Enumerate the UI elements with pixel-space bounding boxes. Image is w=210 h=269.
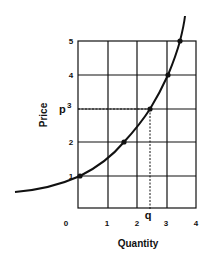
svg-text:1: 1 — [105, 219, 110, 228]
p3-label: p 3 — [59, 101, 72, 115]
x-tick-labels: 0 1 2 3 4 — [64, 219, 199, 228]
svg-text:4: 4 — [69, 71, 74, 80]
svg-text:5: 5 — [69, 37, 74, 46]
svg-text:0: 0 — [64, 219, 69, 228]
svg-text:2: 2 — [135, 219, 140, 228]
svg-text:3: 3 — [164, 219, 169, 228]
svg-text:3: 3 — [67, 101, 72, 110]
svg-text:2: 2 — [69, 138, 74, 147]
y-axis-title: Price — [38, 102, 49, 127]
supply-chart: 5 4 2 1 p 3 q 0 1 2 3 4 Quantity Price — [0, 0, 210, 269]
svg-text:p: p — [59, 103, 66, 115]
svg-text:4: 4 — [194, 219, 199, 228]
grid — [78, 41, 196, 208]
svg-text:1: 1 — [69, 172, 74, 181]
q-label: q — [145, 209, 152, 221]
x-axis-title: Quantity — [118, 238, 159, 249]
